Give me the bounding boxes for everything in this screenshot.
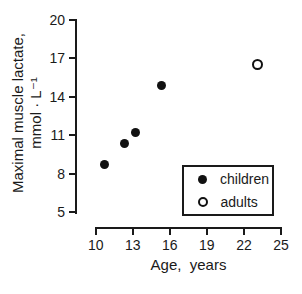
x-tick-mark	[280, 228, 282, 235]
scatter-plot-figure: Maximal muscle lactate, mmol · L⁻¹ Age, …	[0, 0, 302, 294]
x-tick-mark	[206, 228, 208, 235]
x-tick-label: 13	[119, 237, 147, 253]
x-tick-mark	[95, 228, 97, 235]
filled-circle-icon	[198, 175, 207, 184]
y-axis-line	[75, 19, 77, 214]
y-axis-title: Maximal muscle lactate, mmol · L⁻¹	[9, 13, 45, 213]
x-tick-label: 22	[230, 237, 258, 253]
y-tick-label: 14	[35, 89, 65, 105]
y-tick-mark	[69, 134, 76, 136]
y-tick-label: 5	[35, 204, 65, 220]
legend-item-children: children	[184, 169, 272, 189]
data-point-adults	[252, 59, 263, 70]
data-point-children	[120, 139, 129, 148]
y-tick-label: 17	[35, 50, 65, 66]
x-tick-mark	[169, 228, 171, 235]
y-tick-mark	[69, 57, 76, 59]
legend-label-children: children	[220, 171, 269, 187]
x-tick-label: 19	[193, 237, 221, 253]
legend: children adults	[182, 165, 274, 216]
x-tick-label: 10	[82, 237, 110, 253]
y-tick-mark	[69, 96, 76, 98]
y-tick-mark	[69, 19, 76, 21]
y-tick-mark	[69, 211, 76, 213]
x-axis-line	[95, 227, 282, 229]
open-circle-icon	[198, 197, 208, 207]
x-tick-mark	[132, 228, 134, 235]
legend-label-adults: adults	[221, 194, 258, 210]
data-point-children	[100, 160, 109, 169]
data-point-children	[131, 128, 140, 137]
y-tick-mark	[69, 173, 76, 175]
y-axis-title-line1: Maximal muscle lactate,	[9, 13, 27, 213]
x-tick-mark	[243, 228, 245, 235]
y-tick-label: 8	[35, 166, 65, 182]
y-tick-label: 20	[35, 12, 65, 28]
x-tick-label: 16	[156, 237, 184, 253]
data-point-children	[157, 81, 166, 90]
x-axis-title: Age, years	[95, 256, 282, 273]
y-tick-label: 11	[35, 127, 65, 143]
y-axis-title-line2: mmol · L⁻¹	[27, 13, 45, 213]
legend-item-adults: adults	[184, 192, 272, 212]
x-tick-label: 25	[267, 237, 295, 253]
